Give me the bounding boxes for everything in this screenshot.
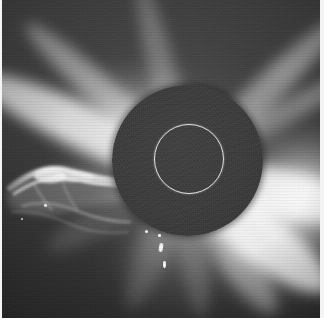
right-edge-strip bbox=[320, 0, 324, 318]
vignette-overlay bbox=[2, 0, 320, 318]
left-edge-strip bbox=[0, 0, 2, 318]
coronagraph-image-frame bbox=[2, 0, 320, 318]
coronagraph-screenshot bbox=[0, 0, 324, 333]
bottom-margin bbox=[0, 318, 324, 333]
